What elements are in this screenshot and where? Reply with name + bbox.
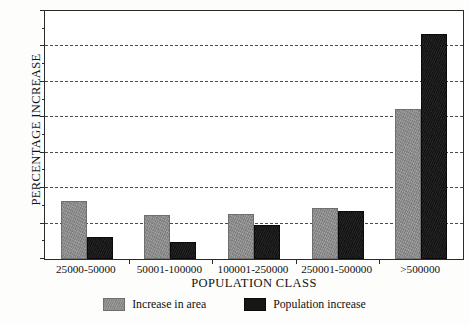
x-axis-tick-label: 250001-500000 [301,263,372,275]
y-axis-tick [40,187,45,188]
legend-item-population-increase: Population increase [244,297,366,312]
y-axis-tick [40,116,45,117]
y-axis-minor-tick [42,205,45,206]
y-axis-tick [40,223,45,224]
x-axis-tick [129,259,130,264]
x-axis-tick-label: >500000 [400,263,440,275]
bar-population-increase [338,211,364,259]
bar-population-increase [170,242,196,259]
bar-increase-in-area [312,208,338,259]
bar-increase-in-area [61,201,87,259]
bar-population-increase [254,225,280,259]
y-axis-tick [40,81,45,82]
bar-increase-in-area [228,214,254,259]
x-axis-title: POPULATION CLASS [44,276,464,291]
y-axis-minor-tick [42,240,45,241]
y-axis-tick [40,152,45,153]
legend-label-increase-in-area: Increase in area [132,297,206,312]
bar-chart-figure: PERCENTAGE INCREASE 010203040506070 POPU… [0,0,469,325]
y-axis-minor-tick [42,169,45,170]
x-axis-tick-label: 50001-100000 [137,263,202,275]
x-axis-tick-label: 100001-250000 [218,263,289,275]
y-axis-minor-tick [42,63,45,64]
y-axis-tick [40,45,45,46]
gridline [45,81,463,82]
chart-legend: Increase in area Population increase [0,297,469,312]
x-axis-tick [379,259,380,264]
gridline [45,45,463,46]
legend-swatch-increase-in-area [103,298,125,311]
bar-increase-in-area [395,109,421,259]
y-axis-tick [40,10,45,11]
y-axis-minor-tick [42,28,45,29]
bar-population-increase [87,237,113,259]
legend-swatch-population-increase [244,298,266,311]
y-axis-tick [40,258,45,259]
x-axis-tick [296,259,297,264]
x-axis-tick [212,259,213,264]
legend-item-increase-in-area: Increase in area [103,297,206,312]
x-axis-tick-label: 25000-50000 [56,263,116,275]
legend-label-population-increase: Population increase [273,297,366,312]
y-axis-minor-tick [42,99,45,100]
plot-area: 010203040506070 [44,10,464,260]
bar-population-increase [421,34,447,259]
bar-increase-in-area [144,215,170,259]
y-axis-minor-tick [42,134,45,135]
